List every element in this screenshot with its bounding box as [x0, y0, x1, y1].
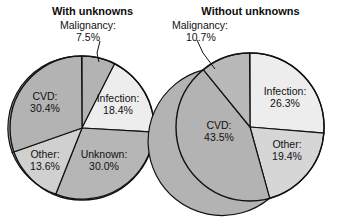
slice-value-cvd-right: 43.5%	[204, 131, 234, 143]
slice-label-unknown-left: Unknown:	[81, 148, 128, 160]
slice-value-other-right: 19.4%	[272, 150, 302, 162]
slice-value-unknown-left: 30.0%	[89, 160, 119, 172]
slice-value-infection-left: 18.4%	[103, 104, 133, 116]
slice-value-other-left: 13.6%	[30, 160, 60, 172]
pie-without-unknowns: Infection: 26.3% Other: 19.4% CVD: 43.5%	[169, 0, 338, 218]
leader-line-malignancy-right	[197, 40, 215, 69]
slice-label-infection-right: Infection:	[264, 85, 307, 97]
slice-value-cvd-left: 30.4%	[30, 102, 60, 114]
slice-label-cvd-left: CVD:	[32, 90, 57, 102]
slice-label-infection-left: Infection:	[97, 92, 140, 104]
pie-chart-figure: With unknowns Malignancy: 7.5% Infection…	[0, 0, 338, 218]
slice-label-other-right: Other:	[272, 138, 301, 150]
slice-label-cvd-right: CVD:	[206, 119, 231, 131]
slice-label-other-left: Other:	[30, 148, 59, 160]
pie-with-unknowns: Infection: 18.4% Unknown: 30.0% Other: 1…	[0, 0, 169, 218]
panel-without-unknowns: Without unknowns Malignancy: 10.7% Infec…	[169, 0, 338, 218]
slice-value-infection-right: 26.3%	[270, 97, 300, 109]
panel-with-unknowns: With unknowns Malignancy: 7.5% Infection…	[0, 0, 169, 218]
